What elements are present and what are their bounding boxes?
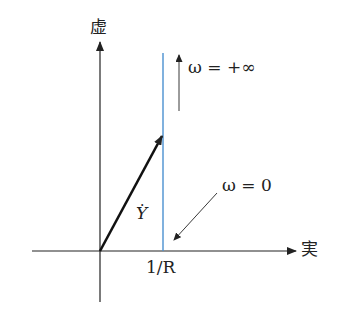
omega-zero-label: ω = 0 [222,177,272,194]
vector-label: · Y [136,205,147,222]
vector-dot: · [140,198,144,212]
omega-inf-label: ω = +∞ [188,59,255,76]
omega-zero-arrow [174,193,217,240]
locus-x-label: 1/R [146,259,175,276]
real-axis-label: 実 [301,241,318,258]
imag-axis-label: 虚 [90,19,107,36]
y-vector [100,136,162,251]
